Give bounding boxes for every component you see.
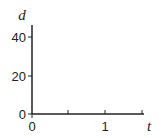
y-axis-label: d xyxy=(18,7,26,23)
y-tick-label-20: 20 xyxy=(12,69,26,84)
chart-canvas: 40 20 0 0 1 d t xyxy=(0,0,163,138)
x-tick-label-0: 0 xyxy=(28,119,35,134)
chart: 40 20 0 0 1 d t xyxy=(0,0,163,138)
x-axis-label: t xyxy=(147,118,152,134)
y-tick-label-40: 40 xyxy=(12,30,26,45)
x-tick-label-1: 1 xyxy=(101,119,108,134)
y-tick-label-0: 0 xyxy=(19,107,26,122)
